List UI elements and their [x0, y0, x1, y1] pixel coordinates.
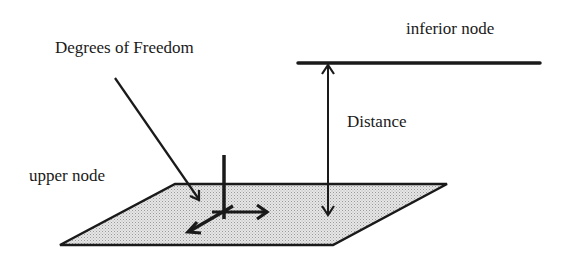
dof-pointer-arrow	[115, 78, 199, 200]
degrees-of-freedom-label: Degrees of Freedom	[55, 39, 194, 56]
distance-label: Distance	[347, 113, 406, 130]
inferior-node-label: inferior node	[406, 20, 494, 37]
upper-node-plane	[60, 184, 447, 245]
upper-node-label: upper node	[29, 167, 105, 184]
